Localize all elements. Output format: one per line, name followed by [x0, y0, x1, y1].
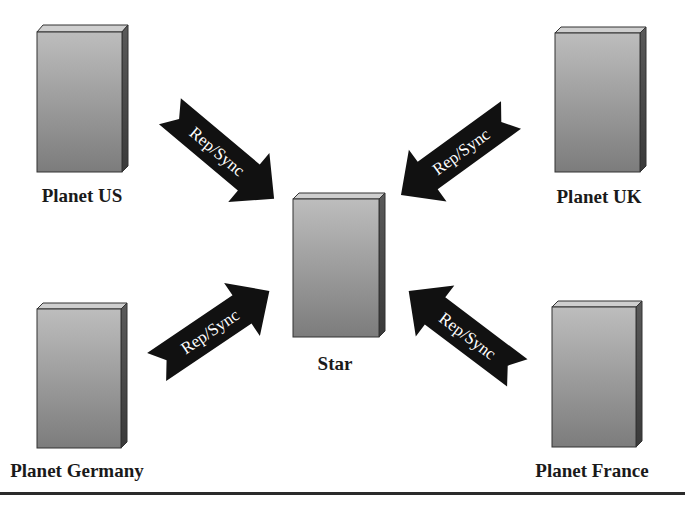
server-box-icon — [37, 303, 127, 448]
node-label: Planet US — [42, 185, 123, 206]
server-box-icon — [37, 25, 128, 172]
server-box-icon — [293, 193, 385, 337]
planet-us-node: Planet US — [37, 25, 128, 206]
hub-label: Star — [318, 353, 353, 374]
server-box-icon — [555, 27, 646, 172]
planet-germany-node: Planet Germany — [10, 303, 144, 481]
node-label: Planet UK — [557, 186, 642, 207]
arrow-uk-to-star: Rep/Sync — [382, 89, 530, 221]
planet-uk-node: Planet UK — [555, 27, 646, 207]
replication-diagram: Planet US Planet UK Star Planet Germany — [0, 0, 685, 509]
node-label: Planet France — [535, 460, 648, 481]
planet-france-node: Planet France — [535, 301, 648, 481]
node-label: Planet Germany — [10, 460, 144, 481]
server-box-icon — [552, 301, 642, 447]
arrow-us-to-star: Rep/Sync — [149, 87, 294, 223]
bottom-divider — [0, 492, 685, 495]
arrow-germany-to-star: Rep/Sync — [139, 264, 288, 393]
star-hub-node: Star — [293, 193, 385, 374]
arrow-france-to-star: Rep/Sync — [389, 266, 536, 399]
